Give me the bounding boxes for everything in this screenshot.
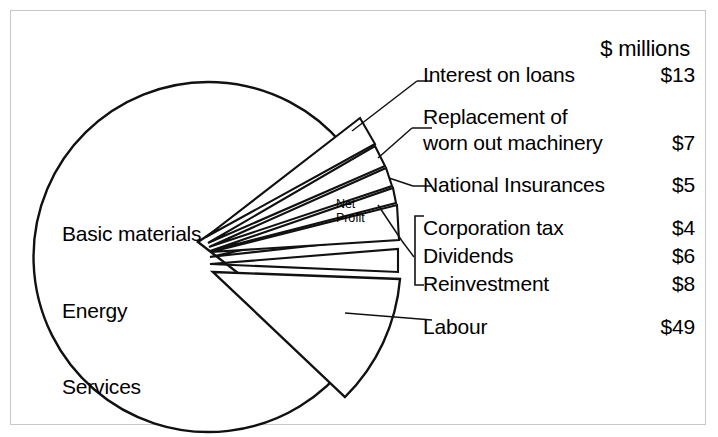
net-profit-group-label: Net Profit bbox=[336, 198, 365, 225]
legend-row-corporation-tax: Corporation tax $4 bbox=[423, 215, 695, 241]
legend-value: $7 bbox=[672, 130, 695, 156]
legend-label: Corporation tax bbox=[423, 215, 564, 241]
legend-row-national-insurances: National Insurances $5 bbox=[423, 172, 695, 198]
legend-value: $5 bbox=[672, 172, 695, 198]
legend-row-labour: Labour $49 bbox=[423, 314, 695, 340]
legend-label: Replacement of worn out machinery bbox=[423, 104, 603, 156]
pie-center-label-line-1: Basic materials bbox=[62, 221, 201, 247]
pie-center-label-line-3: Services bbox=[62, 374, 201, 400]
figure-canvas: $ millions Basic materials Energy Servic… bbox=[0, 0, 718, 437]
legend-value: $49 bbox=[661, 314, 695, 340]
pie-center-label-line-2: Energy bbox=[62, 298, 201, 324]
legend-label: Labour bbox=[423, 314, 487, 340]
net-profit-label-line-2: Profit bbox=[336, 212, 365, 226]
legend-label: National Insurances bbox=[423, 172, 605, 198]
units-header: $ millions bbox=[600, 36, 690, 62]
legend-label: Reinvestment bbox=[423, 271, 549, 297]
legend-label: Interest on loans bbox=[423, 62, 575, 88]
legend-row-interest-on-loans: Interest on loans $13 bbox=[423, 62, 695, 88]
legend: Interest on loans $13 Replacement of wor… bbox=[423, 62, 695, 340]
legend-value: $4 bbox=[672, 215, 695, 241]
legend-row-dividends: Dividends $6 bbox=[423, 243, 695, 269]
legend-value: $8 bbox=[672, 271, 695, 297]
net-profit-label-line-1: Net bbox=[336, 198, 365, 212]
legend-value: $13 bbox=[661, 62, 695, 88]
pie-center-label: Basic materials Energy Services Taxes $3… bbox=[62, 170, 201, 437]
legend-row-reinvestment: Reinvestment $8 bbox=[423, 271, 695, 297]
legend-label: Dividends bbox=[423, 243, 513, 269]
legend-value: $6 bbox=[672, 243, 695, 269]
legend-row-replacement-machinery: Replacement of worn out machinery $7 bbox=[423, 104, 695, 156]
